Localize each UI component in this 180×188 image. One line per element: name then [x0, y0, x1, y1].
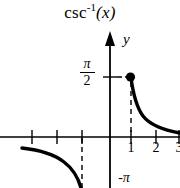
y-axis-arrowhead: [105, 31, 115, 46]
negative-pi-numerator: -π: [112, 171, 136, 185]
x-tick-label-1: 1: [124, 140, 138, 156]
plot-area: [0, 0, 180, 188]
endpoint-dot: [126, 72, 135, 81]
inverse-cosecant-figure: csc-1(x) y 1 2 3 π: [0, 0, 180, 188]
x-tick-label-3: 3: [172, 140, 180, 156]
y-axis-label: y: [123, 31, 130, 48]
y-tick-label-pi-half: π 2: [76, 57, 98, 88]
curve-right-branch: [131, 78, 180, 133]
pi-numerator: π: [76, 57, 98, 72]
x-tick-label-2: 2: [149, 140, 163, 156]
y-tick-label-negative-pi-half: -π: [112, 171, 136, 188]
pi-denominator: 2: [76, 73, 98, 88]
curve-left-branch: [22, 148, 81, 188]
